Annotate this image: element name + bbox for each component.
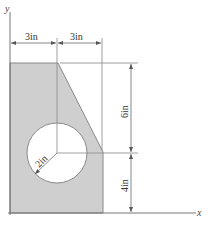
area-diagram: y x 3in 3in 6in 4in 2in <box>0 0 209 226</box>
dim-label-right-lower: 4in <box>119 179 130 192</box>
composite-area <box>10 63 103 213</box>
dim-label-top-right: 3in <box>70 31 83 42</box>
dim-label-top-left: 3in <box>25 31 38 42</box>
radius-label: 2in <box>33 153 50 170</box>
y-axis-label: y <box>4 3 10 14</box>
x-axis-label: x <box>196 207 202 218</box>
dim-label-right-upper: 6in <box>119 105 130 118</box>
